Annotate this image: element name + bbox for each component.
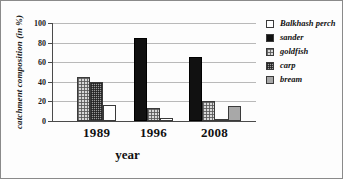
x-axis-tick-label-1996: 1996 [140, 125, 167, 141]
y-axis-tick-label: 60 [38, 58, 46, 67]
legend-swatch-goldfish [266, 48, 274, 56]
y-axis-tick [48, 23, 53, 24]
gridline [53, 23, 256, 24]
y-axis-tick [48, 121, 53, 122]
legend-label: bream [280, 75, 302, 84]
x-axis-tick-label-2008: 2008 [201, 125, 228, 141]
legend-swatch-bream [266, 76, 274, 84]
legend-item-carp[interactable]: carp [266, 61, 342, 70]
legend-label: sander [280, 33, 304, 42]
bar-1989-goldfish [77, 77, 90, 121]
legend-item-sander[interactable]: sander [266, 33, 342, 42]
legend-label: carp [280, 61, 296, 70]
bar-2008-bream [228, 106, 241, 121]
chart-legend: Balkhash perchsandergoldfishcarpbream [266, 19, 342, 89]
bar-1989-carp [90, 82, 103, 121]
y-axis-line [52, 23, 53, 121]
bar-1989-balkhash-perch [103, 105, 116, 121]
legend-item-bream[interactable]: bream [266, 75, 342, 84]
y-axis-tick [48, 101, 53, 102]
bar-2008-carp [215, 119, 228, 121]
x-axis-title: year [1, 147, 254, 163]
x-axis-tick-label-1989: 1989 [83, 125, 110, 141]
legend-label: goldfish [280, 47, 308, 56]
bar-2008-goldfish [202, 101, 215, 121]
legend-label: Balkhash perch [280, 19, 336, 28]
y-axis-tick [48, 43, 53, 44]
y-axis-tick-label: 80 [38, 38, 46, 47]
bar-2008-sander [189, 57, 202, 121]
legend-swatch-carp [266, 62, 274, 70]
bar-1996-sander [134, 38, 147, 121]
gridline [53, 62, 256, 63]
y-axis-title: catchment composition (in %) [14, 19, 24, 129]
y-axis-tick-label: 40 [38, 77, 46, 86]
legend-swatch-sander [266, 34, 274, 42]
x-axis-line [52, 121, 256, 122]
legend-item-balkhash-perch[interactable]: Balkhash perch [266, 19, 342, 28]
bar-1996-goldfish [147, 108, 160, 121]
chart-frame: catchment composition (in %) 02040608010… [0, 0, 343, 179]
legend-swatch-perch [266, 20, 274, 28]
bar-1996-balkhash-perch [160, 118, 173, 121]
plot-area: 020406080100 [53, 23, 256, 121]
y-axis-tick-label: 20 [38, 97, 46, 106]
y-axis-tick-label: 100 [34, 19, 46, 28]
y-axis-tick [48, 62, 53, 63]
y-axis-tick-label: 0 [42, 117, 46, 126]
y-axis-tick [48, 82, 53, 83]
gridline [53, 43, 256, 44]
legend-item-goldfish[interactable]: goldfish [266, 47, 342, 56]
